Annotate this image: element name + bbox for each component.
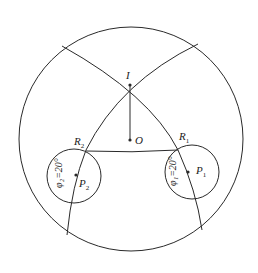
label-r2: R2 (74, 136, 84, 150)
point-o (128, 138, 131, 141)
label-o: O (135, 135, 143, 146)
chord-r2-r1 (86, 150, 178, 152)
label-phi2: φ₂=20° (54, 158, 64, 188)
point-p1 (186, 170, 189, 173)
diagram-svg (0, 0, 258, 273)
point-i (128, 83, 131, 86)
label-p2: P2 (79, 178, 89, 192)
label-p1: P1 (196, 165, 206, 179)
label-phi1: φ₁=20° (168, 156, 178, 186)
label-r1: R1 (179, 131, 189, 145)
point-p2 (74, 173, 77, 176)
diagram-canvas: I O R1 R2 P1 P2 φ₂=20° φ₁=20° (0, 0, 258, 273)
label-i: I (126, 70, 130, 81)
